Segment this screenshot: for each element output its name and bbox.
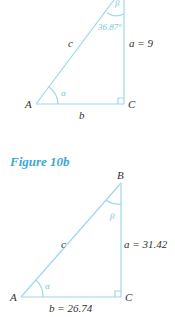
- vertex-A-a: A: [24, 98, 32, 110]
- angle-alpha-b: α: [45, 281, 50, 291]
- side-c-b: c: [61, 238, 66, 250]
- triangle-b: [21, 183, 121, 297]
- angle-beta-a: β: [114, 0, 120, 8]
- side-a-a: a = 9: [129, 37, 153, 49]
- vertex-B-b: B: [117, 169, 124, 181]
- figure-caption: Figure 10b: [10, 154, 70, 170]
- side-c-a: c: [68, 37, 73, 49]
- vertex-C-a: C: [128, 98, 136, 110]
- side-b-a: b: [79, 109, 85, 121]
- triangle-a: [36, 0, 124, 104]
- side-b-b: b = 26.74: [49, 302, 93, 314]
- angle-alpha-a: α: [61, 88, 66, 98]
- side-a-b: a = 31.42: [124, 238, 168, 250]
- vertex-A-b: A: [9, 291, 17, 303]
- angle-beta-b: β: [109, 211, 115, 221]
- angle-beta-value-a: 36.87°: [97, 22, 122, 32]
- vertex-C-b: C: [125, 291, 133, 303]
